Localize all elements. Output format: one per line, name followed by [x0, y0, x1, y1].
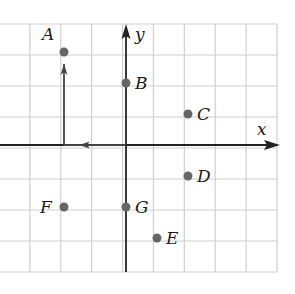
point-e-label: E	[165, 228, 179, 248]
point-f-label: F	[39, 197, 53, 217]
point-g-label: G	[135, 197, 149, 217]
y-axis-label: y	[134, 24, 145, 44]
point-a-label: A	[40, 24, 54, 44]
point-b-label: B	[134, 73, 148, 93]
point-d-label: D	[196, 166, 211, 186]
point-e-marker	[153, 234, 162, 243]
point-f-marker	[60, 203, 69, 212]
grid-lines	[0, 24, 277, 272]
point-b-marker	[122, 79, 131, 88]
x-axis-label: x	[257, 119, 267, 139]
point-a-marker	[60, 48, 69, 57]
path-arrows	[61, 64, 127, 149]
point-c-marker	[184, 110, 193, 119]
point-d-marker	[184, 172, 193, 181]
point-g-marker	[122, 203, 131, 212]
coordinate-plane: xy ABCDEFG	[0, 0, 295, 294]
point-c-label: C	[197, 104, 210, 124]
